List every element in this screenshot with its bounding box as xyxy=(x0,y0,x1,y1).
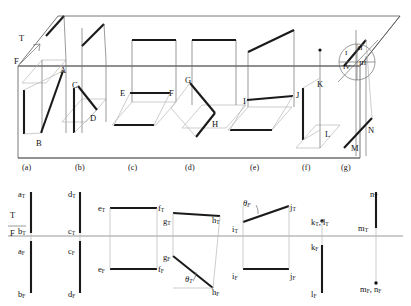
ortho-point-label-et: eT xyxy=(98,204,105,214)
quadrant-label-iii: III xyxy=(359,60,366,67)
panel-caption-b: (b) xyxy=(75,163,85,172)
ortho-point-label-if: iF xyxy=(232,272,238,282)
angle-label-thetaf-i: θF xyxy=(243,199,251,209)
ortho-view-mn xyxy=(374,192,377,285)
ortho-point-label-ct: cT xyxy=(68,227,75,237)
pictorial-point-label-m: M xyxy=(351,144,359,153)
pictorial-point-label-e: E xyxy=(120,89,125,98)
ortho-point-label-mfnf: mF, nF xyxy=(360,285,381,295)
ortho-point-label-lf: lF xyxy=(311,290,317,300)
quadrant-label-iv: IV xyxy=(343,64,350,71)
quadrant-label-ii: II xyxy=(358,45,363,52)
ortho-point-label-gt: gT xyxy=(163,217,171,227)
pictorial-panel-c xyxy=(112,40,176,125)
ortho-point-label-ktlt: kT, lT xyxy=(311,218,329,228)
panel-caption-f: (f) xyxy=(302,163,311,172)
pictorial-point-label-b: B xyxy=(36,139,42,148)
ortho-point-label-ef: eF xyxy=(98,265,105,275)
ortho-point-label-bt: bT xyxy=(18,227,26,237)
pictorial-top-marker: T xyxy=(19,34,24,43)
ortho-view-ef xyxy=(110,208,157,269)
pictorial-panel-e xyxy=(228,30,294,130)
pictorial-point-label-f: F xyxy=(169,89,174,98)
pictorial-point-label-i: I xyxy=(243,97,246,106)
ortho-point-label-jf: jF xyxy=(290,272,296,282)
ortho-point-label-ft: fT xyxy=(158,204,164,214)
pictorial-point-label-k: K xyxy=(317,80,323,89)
panel-caption-d: (d) xyxy=(185,163,195,172)
pictorial-point-label-c: C xyxy=(72,81,78,90)
fold-corner-arrow xyxy=(20,44,40,64)
pictorial-front-marker: F xyxy=(14,57,19,66)
ortho-point-label-kf: kF xyxy=(311,243,318,253)
ortho-top-marker: T xyxy=(10,211,15,220)
panel-caption-a: (a) xyxy=(22,163,31,172)
ortho-point-label-hf: hF xyxy=(212,288,219,298)
pictorial-panel-f xyxy=(296,48,340,148)
ortho-point-label-af: aF xyxy=(18,247,25,257)
pictorial-point-label-a: A xyxy=(60,66,66,75)
pictorial-point-label-g: G xyxy=(185,76,191,85)
ortho-point-label-gf: gF xyxy=(163,253,170,263)
panel-caption-g: (g) xyxy=(341,163,351,172)
pictorial-point-label-j: J xyxy=(296,91,299,100)
ortho-point-label-bf: bF xyxy=(18,290,25,300)
ortho-point-label-dt: dT xyxy=(68,190,76,200)
ortho-front-marker: F xyxy=(10,229,15,238)
ortho-view-kl xyxy=(320,219,323,293)
ortho-point-label-ff: fF xyxy=(158,265,164,275)
ortho-point-label-df: dF xyxy=(68,290,75,300)
pictorial-point-label-l: L xyxy=(325,130,330,139)
ortho-point-label-jt: jT xyxy=(290,203,296,213)
ortho-point-label-nt: nT xyxy=(370,190,378,200)
figure-vector-canvas: .dk{stroke:#1a1a1a;stroke-width:2.1;fill… xyxy=(0,0,411,306)
descriptive-geometry-figure: .dk{stroke:#1a1a1a;stroke-width:2.1;fill… xyxy=(0,0,411,306)
ortho-point-label-ht: hT xyxy=(212,216,220,226)
pictorial-point-label-d: D xyxy=(90,114,96,123)
quadrant-label-i: I xyxy=(345,50,347,57)
angle-label-thetat-g: θT xyxy=(185,275,192,285)
pictorial-point-label-h: H xyxy=(212,120,218,129)
pictorial-point-label-n: N xyxy=(368,126,374,135)
ortho-point-label-at: aT xyxy=(18,190,25,200)
ortho-view-ij xyxy=(243,205,289,269)
pictorial-panel-b xyxy=(62,24,106,133)
ortho-point-label-it: iT xyxy=(232,225,238,235)
ortho-point-label-cf: cF xyxy=(68,247,75,257)
panel-caption-c: (c) xyxy=(128,163,137,172)
ortho-point-label-mt: mT xyxy=(358,224,368,234)
panel-caption-e: (e) xyxy=(250,163,259,172)
